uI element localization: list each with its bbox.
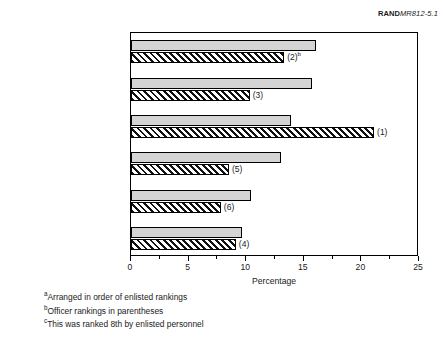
plot-area: (2)b(3)(1)(5)(6)(4) Enlisted Officer [130, 32, 418, 256]
bar-group: (3) [131, 78, 417, 101]
x-tick-label: 0 [128, 262, 133, 272]
bar-enlisted [131, 78, 312, 89]
bar-enlisted [131, 40, 316, 51]
x-axis-ticks [130, 256, 418, 262]
officer-rank-label: (3) [253, 90, 263, 101]
x-tick-minor [389, 256, 390, 259]
source-number: MR812-5.1 [400, 9, 438, 18]
footnotes: aArranged in order of enlisted rankingsb… [44, 291, 374, 332]
x-tick-minor [159, 256, 160, 259]
bar-officer [131, 164, 229, 175]
x-tick-minor [216, 256, 217, 259]
footnote: bOfficer rankings in parentheses [44, 305, 374, 319]
bar-group: (6) [131, 190, 417, 213]
x-tick-label: 15 [298, 262, 308, 272]
bar-officer [131, 127, 374, 138]
x-tick-label: 25 [413, 262, 423, 272]
bar-officer [131, 52, 284, 63]
x-tick [188, 256, 189, 261]
figure: RANDMR812-5.1 (2)b(3)(1)(5)(6)(4) Enlist… [0, 0, 444, 347]
bar-group: (4) [131, 227, 417, 250]
x-tick [418, 256, 419, 261]
figure-source-id: RANDMR812-5.1 [378, 9, 438, 18]
x-tick-label: 10 [240, 262, 250, 272]
x-tick [245, 256, 246, 261]
x-tick [130, 256, 131, 261]
x-tick [360, 256, 361, 261]
officer-rank-label: (4) [239, 239, 249, 250]
bar-group: (2)b [131, 40, 417, 63]
officer-rank-label: (6) [224, 202, 234, 213]
x-tick-minor [332, 256, 333, 259]
source-prefix: RAND [378, 9, 400, 18]
x-tick-label: 5 [185, 262, 190, 272]
bar-enlisted [131, 227, 242, 238]
officer-rank-label: (5) [232, 164, 242, 175]
x-tick-label: 20 [356, 262, 366, 272]
bar-officer [131, 239, 236, 250]
bar-enlisted [131, 190, 251, 201]
bar-enlisted [131, 115, 291, 126]
bar-officer [131, 90, 250, 101]
x-tick [303, 256, 304, 261]
bar-enlisted [131, 152, 281, 163]
bars-container: (2)b(3)(1)(5)(6)(4) [131, 33, 417, 255]
x-axis-title: Percentage [130, 276, 418, 286]
footnote: aArranged in order of enlisted rankings [44, 291, 374, 305]
officer-rank-label: (2)b [287, 52, 301, 63]
bar-group: (5) [131, 152, 417, 175]
footnote: cThis was ranked 8th by enlisted personn… [44, 318, 374, 332]
officer-rank-label: (1) [377, 127, 387, 138]
bar-group: (1) [131, 115, 417, 138]
bar-officer [131, 202, 221, 213]
x-tick-minor [274, 256, 275, 259]
